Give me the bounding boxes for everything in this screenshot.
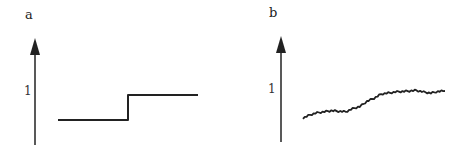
panel-a-step-line [58,95,198,120]
panel-b-noisy-line [303,90,445,119]
figure-canvas [0,0,468,151]
panel-a-axis-arrow-icon [30,38,40,55]
panel-b-axis-arrow-icon [276,36,286,53]
